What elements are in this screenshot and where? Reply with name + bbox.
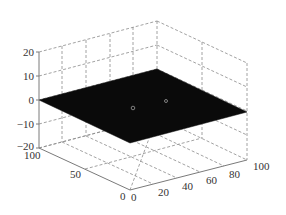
surface-plane — [39, 69, 247, 143]
x-tick-label: 0 — [131, 191, 137, 203]
x-tick-label: 100 — [253, 160, 270, 172]
x-tick-label: 20 — [158, 186, 170, 198]
y-axis — [39, 148, 130, 190]
z-tick-labels: 20 10 0 −10 −20 — [17, 46, 35, 152]
x-tick-label: 80 — [229, 168, 241, 180]
z-tick-label: −10 — [17, 118, 35, 130]
y-tick-label: 0 — [120, 190, 126, 202]
x-tick-label: 40 — [182, 180, 194, 192]
x-tick-label: 60 — [206, 174, 218, 186]
z-tick-label: 0 — [29, 94, 35, 106]
y-tick-labels: 100 50 0 — [24, 149, 126, 202]
y-tick-label: 100 — [24, 149, 41, 161]
3d-surface-plot: 20 10 0 −10 −20 100 50 0 0 20 40 60 80 1… — [0, 0, 286, 215]
z-tick-label: 10 — [23, 70, 35, 82]
z-tick-label: 20 — [23, 46, 35, 58]
y-tick-label: 50 — [70, 168, 82, 180]
